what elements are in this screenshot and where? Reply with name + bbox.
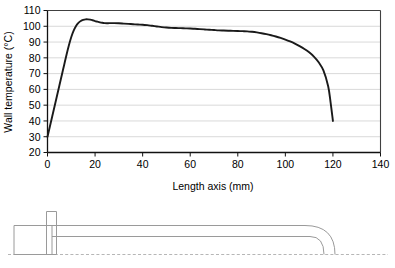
y-axis-tick-label: 90: [29, 36, 41, 48]
y-axis-tick-label: 30: [29, 131, 41, 143]
x-axis-tick-label: 100: [277, 158, 295, 170]
y-axis-tick-label: 80: [29, 52, 41, 64]
y-axis-tick-label: 20: [29, 146, 41, 158]
y-axis-tick-label: 40: [29, 115, 41, 127]
y-axis-tick-label: 100: [23, 20, 41, 32]
y-axis-tick-label: 110: [24, 4, 41, 16]
temperature-curve: [48, 19, 333, 136]
y-axis-tick-labels: 2030405060708090100110: [23, 4, 41, 158]
x-axis-tick-label: 0: [45, 158, 51, 170]
tube-inner-wall: [52, 237, 324, 255]
tube-schematic-diagram: [0, 196, 395, 268]
y-axis-title: Wall temperature (°C): [2, 31, 14, 132]
x-axis-tick-labels: 020406080100120140: [45, 158, 390, 170]
x-axis-tick-label: 140: [372, 158, 390, 170]
x-axis-tick-label: 120: [324, 158, 342, 170]
wall-temperature-line-chart: 020406080100120140 203040506070809010011…: [0, 0, 395, 196]
x-axis-tick-label: 60: [184, 158, 196, 170]
chart-panel: 020406080100120140 203040506070809010011…: [0, 0, 395, 196]
y-axis-tick-label: 50: [29, 99, 41, 111]
x-axis-tick-label: 20: [89, 158, 101, 170]
y-axis-tick-label: 60: [29, 83, 41, 95]
x-axis-tick-label: 40: [137, 158, 149, 170]
schematic-panel: [0, 196, 395, 268]
x-axis-tick-label: 80: [232, 158, 244, 170]
figure-root: 020406080100120140 203040506070809010011…: [0, 0, 395, 268]
tube-outer-wall: [14, 226, 335, 255]
y-axis-tick-label: 70: [29, 67, 41, 79]
plot-frame: [48, 11, 381, 153]
x-axis-title: Length axis (mm): [172, 180, 253, 192]
